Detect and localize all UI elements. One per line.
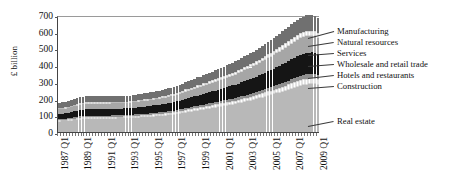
legend-label: Hotels and restaurants: [337, 70, 414, 80]
x-tick-label: 1997 Q1: [177, 137, 187, 170]
y-tick-label: 700: [25, 12, 53, 21]
y-tick-label: 500: [25, 45, 53, 54]
y-tick-label: 0: [25, 129, 53, 138]
y-tick-label: 600: [25, 28, 53, 37]
bar-segment: [317, 18, 320, 33]
legend-label: Construction: [337, 81, 382, 91]
y-tick-label: 300: [25, 78, 53, 87]
legend-label: Real estate: [337, 116, 375, 126]
legend-label: Services: [337, 48, 366, 58]
y-axis-tick-labels: 0100200300400500600700: [23, 0, 53, 188]
bar-segment: [317, 79, 320, 85]
y-tick-mark: [55, 34, 58, 35]
legend-label: Manufacturing: [337, 26, 389, 36]
y-tick-label: 100: [25, 112, 53, 121]
legend-label: Wholesale and retail trade: [337, 59, 428, 69]
x-tick-label: 1991 Q1: [107, 137, 117, 170]
y-tick-mark: [55, 84, 58, 85]
x-tick-mark: [316, 133, 319, 136]
y-axis-title: £ billion: [9, 21, 19, 101]
x-tick-label: 1993 Q1: [130, 137, 140, 170]
x-axis-tick-labels: 1987 Q11989 Q11991 Q11993 Q11995 Q11997 …: [57, 137, 319, 187]
x-tick-label: 2005 Q1: [272, 137, 282, 170]
y-tick-label: 200: [25, 95, 53, 104]
y-tick-mark: [55, 50, 58, 51]
x-tick-label: 2001 Q1: [225, 137, 235, 170]
y-tick-mark: [55, 101, 58, 102]
x-tick-label: 2007 Q1: [295, 137, 305, 170]
x-tick-label: 1989 Q1: [83, 137, 93, 170]
plot-area: [57, 16, 319, 133]
x-tick-label: 1995 Q1: [154, 137, 164, 170]
y-tick-mark: [55, 17, 58, 18]
x-tick-label: 2009 Q1: [319, 137, 329, 170]
y-tick-label: 400: [25, 62, 53, 71]
y-tick-mark: [55, 117, 58, 118]
x-tick-label: 1999 Q1: [201, 137, 211, 170]
x-tick-label: 2003 Q1: [248, 137, 258, 170]
bar-group: [58, 17, 319, 132]
chart-container: £ billion 0100200300400500600700 1987 Q1…: [0, 0, 459, 188]
y-tick-mark: [55, 67, 58, 68]
legend-label: Natural resources: [337, 37, 398, 47]
bar-segment: [317, 38, 320, 54]
x-tick-label: 1987 Q1: [60, 137, 70, 170]
